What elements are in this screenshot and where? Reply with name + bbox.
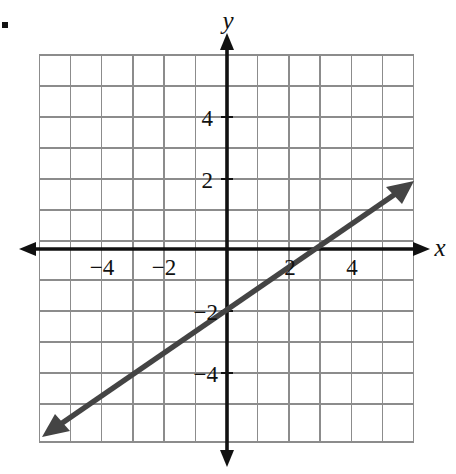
x-axis-arrow-right: [413, 242, 430, 256]
graph-canvas: −4 −2 2 4 4 2 −2 −4 y x: [0, 0, 456, 474]
x-axis: [19, 242, 430, 256]
y-tick-label-4: 4: [202, 106, 214, 131]
x-axis-label: x: [433, 234, 445, 261]
x-tick-label-2: 2: [284, 255, 296, 280]
x-tick-label-neg4: −4: [90, 255, 115, 280]
y-tick-label-neg2: −2: [194, 300, 218, 325]
y-axis-arrow-up: [220, 33, 234, 50]
coordinate-plane-figure: −4 −2 2 4 4 2 −2 −4 y x: [0, 0, 456, 474]
x-axis-arrow-left: [19, 242, 36, 256]
y-tick-label-neg4: −4: [194, 362, 219, 387]
y-axis-arrow-down: [220, 450, 234, 467]
y-axis-label: y: [219, 7, 234, 34]
x-tick-label-4: 4: [346, 255, 358, 280]
x-tick-label-neg2: −2: [152, 255, 176, 280]
y-tick-label-2: 2: [202, 168, 214, 193]
